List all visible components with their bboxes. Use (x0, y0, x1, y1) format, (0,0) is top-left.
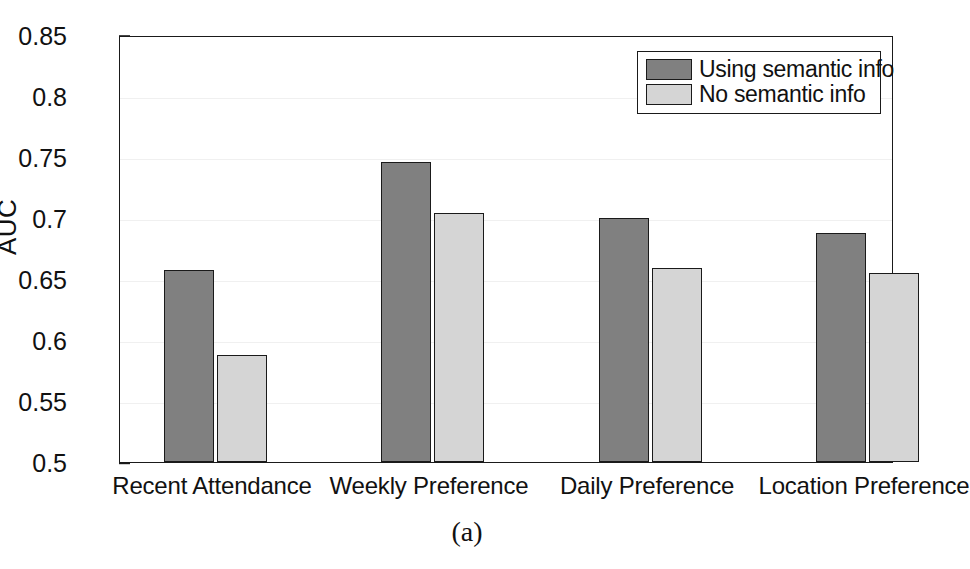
bar (599, 218, 649, 462)
y-axis: 0.50.550.60.650.70.750.80.85 (0, 0, 119, 569)
gridline (120, 342, 892, 343)
legend-item: Using semantic info (646, 57, 872, 82)
bar (217, 355, 267, 462)
y-tick-label: 0.75 (18, 144, 67, 173)
y-tick-label: 0.8 (32, 83, 67, 112)
y-tick-label: 0.7 (32, 205, 67, 234)
x-tick-label: Location Preference (758, 472, 969, 500)
y-axis-label: AUC (0, 199, 23, 255)
y-tick-label: 0.5 (32, 449, 67, 478)
y-tick-label: 0.65 (18, 266, 67, 295)
gridline (120, 220, 892, 221)
legend-item: No semantic info (646, 82, 872, 107)
y-tick-label: 0.85 (18, 22, 67, 51)
bar (869, 273, 919, 462)
bar (434, 213, 484, 462)
gridline (120, 281, 892, 282)
legend-swatch-icon (646, 59, 692, 80)
x-tick-label: Weekly Preference (330, 472, 529, 500)
legend-item-label: No semantic info (699, 81, 866, 108)
legend: Using semantic info No semantic info (637, 51, 881, 114)
y-tick-label: 0.55 (18, 388, 67, 417)
figure-caption: (a) (0, 516, 934, 548)
y-tick-label: 0.6 (32, 327, 67, 356)
bar (381, 162, 431, 462)
bar (164, 270, 214, 462)
bar (652, 268, 702, 462)
legend-swatch-icon (646, 84, 692, 105)
gridline (120, 159, 892, 160)
legend-item-label: Using semantic info (699, 56, 894, 83)
bar (816, 233, 866, 462)
x-tick-label: Daily Preference (560, 472, 734, 500)
x-tick-label: Recent Attendance (112, 472, 311, 500)
